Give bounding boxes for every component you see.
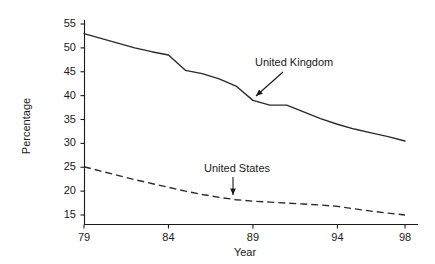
y-tick-label: 20 <box>52 185 76 196</box>
y-tick-label: 50 <box>52 42 76 53</box>
y-tick-label: 15 <box>52 209 76 220</box>
y-axis-ticks <box>81 24 85 215</box>
y-tick-label: 55 <box>52 18 76 29</box>
series-label-united-kingdom: United Kingdom <box>255 56 333 68</box>
plot-area <box>0 0 435 264</box>
x-tick-label: 89 <box>233 232 273 243</box>
x-tick-label: 79 <box>64 232 104 243</box>
x-tick-label: 94 <box>317 232 357 243</box>
y-tick-label: 40 <box>52 90 76 101</box>
x-tick-label: 98 <box>385 232 425 243</box>
y-tick-label: 25 <box>52 161 76 172</box>
y-tick-label: 30 <box>52 137 76 148</box>
series-line-united-states <box>84 167 405 215</box>
series-line-united-kingdom <box>84 34 405 141</box>
uk-annotation-arrow <box>256 72 283 96</box>
x-axis-ticks <box>84 225 405 229</box>
series-label-united-states: United States <box>204 162 270 174</box>
y-axis-title: Percentage <box>21 98 32 154</box>
x-tick-label: 84 <box>148 232 188 243</box>
axis-lines <box>84 20 418 225</box>
line-chart: 152025303540455055 7984899498 Percentage… <box>0 0 435 264</box>
y-tick-label: 35 <box>52 114 76 125</box>
x-axis-title: Year <box>234 247 256 258</box>
y-tick-label: 45 <box>52 66 76 77</box>
